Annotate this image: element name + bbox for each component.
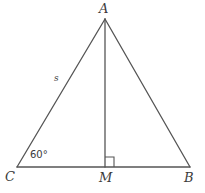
vertex-label-m: M [99, 171, 112, 184]
segment-ca [17, 19, 105, 167]
side-label-s: s [54, 74, 59, 83]
triangle-diagram-canvas [0, 0, 205, 193]
segment-ab [105, 19, 190, 167]
angle-label-c: 60° [30, 150, 48, 160]
vertex-label-a: A [99, 2, 108, 15]
geometry-figure: A B C M s 60° [0, 0, 205, 193]
vertex-label-c: C [5, 170, 15, 183]
vertex-label-b: B [184, 171, 194, 184]
right-angle-marker-icon [105, 157, 114, 167]
